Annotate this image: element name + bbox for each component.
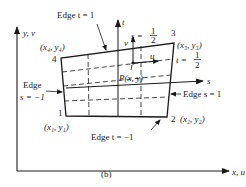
node-1-coords: (x₁, y₁) xyxy=(44,122,69,132)
node-1-number: 1 xyxy=(58,108,63,118)
edge-left-label-2: s = −1 xyxy=(20,92,45,102)
svg-text:2: 2 xyxy=(151,35,156,45)
isoparametric-element-figure: y, v x, u t s v u P(x, y) s = 1 2 t = 1 xyxy=(0,0,246,187)
node-4-number: 4 xyxy=(52,54,57,64)
svg-text:t =: t = xyxy=(176,55,187,65)
t-axis-label: t xyxy=(122,17,125,27)
u-arrow xyxy=(133,61,158,63)
node-3-number: 3 xyxy=(171,28,176,38)
node-4-coords: (x₄, y₄) xyxy=(40,42,65,52)
edge-bottom-label: Edge t = −1 xyxy=(91,132,133,142)
node-2-number: 2 xyxy=(171,114,176,124)
v-label: v xyxy=(124,38,128,48)
s-half-label: s = 1 2 xyxy=(131,26,157,45)
diagram-canvas: y, v x, u t s v u P(x, y) s = 1 2 t = 1 xyxy=(0,0,246,187)
node-3-coords: (x₃, y₃) xyxy=(177,40,202,50)
svg-text:2: 2 xyxy=(195,60,200,70)
edge-left-label-1: Edge xyxy=(23,80,42,90)
t-half-label: t = 1 2 xyxy=(176,50,201,70)
edge-top-label: Edge t = 1 xyxy=(57,10,94,20)
p-pointer xyxy=(131,65,132,70)
figure-caption: (b) xyxy=(101,169,112,179)
y-axis-label: y, v xyxy=(22,28,35,38)
point-p-label: P(x, y) xyxy=(118,73,143,83)
svg-text:1: 1 xyxy=(195,50,200,60)
node-2-coords: (x₂, y₂) xyxy=(180,114,205,124)
svg-text:s =: s = xyxy=(131,31,143,41)
u-label: u xyxy=(150,51,155,61)
s-axis-label: s xyxy=(207,76,211,86)
edge-right-label: Edge s = 1 xyxy=(183,89,221,99)
x-axis-label: x, u xyxy=(231,167,245,177)
point-p-dot xyxy=(131,61,134,64)
